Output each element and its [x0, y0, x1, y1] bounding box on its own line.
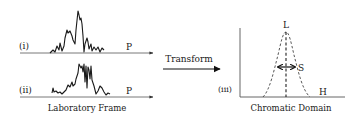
- signal-ii-panel: (ii) P Laboratory Frame: [19, 64, 153, 113]
- signal-ii-waveform: [52, 64, 110, 95]
- spread-label: S: [298, 63, 304, 73]
- chromatic-panel-label: (iii): [218, 85, 232, 94]
- signal-ii-label: (ii): [19, 85, 32, 95]
- signal-i-waveform: [50, 11, 104, 53]
- lab-frame-caption: Laboratory Frame: [48, 103, 127, 113]
- transform-arrow-group: Transform: [163, 54, 220, 69]
- signal-i-label: (i): [19, 41, 29, 51]
- signal-i-panel: (i) P: [19, 11, 153, 53]
- peak-label: L: [283, 20, 289, 30]
- signal-ii-axis-label: P: [126, 86, 132, 96]
- diagram-canvas: (i) P (ii) P Laboratory Frame Transform …: [0, 0, 360, 116]
- chromatic-axis-label: H: [319, 87, 327, 97]
- transform-label: Transform: [165, 54, 213, 64]
- chromatic-panel: L S H (iii) Chromatic Domain: [218, 20, 345, 113]
- signal-i-axis-label: P: [126, 42, 132, 52]
- chromatic-caption: Chromatic Domain: [250, 103, 332, 113]
